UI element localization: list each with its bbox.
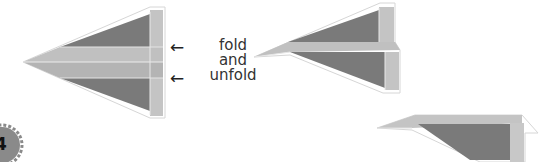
diagram-canvas	[0, 0, 543, 162]
left-arrow-icon: ←	[170, 70, 184, 87]
instruction-label: fold and unfold	[198, 38, 268, 83]
folding-diagram: ← ← fold and unfold 4	[0, 0, 543, 162]
plane-1-flat-with-fold-lines	[23, 7, 165, 118]
plane-2-folded-wings	[254, 3, 400, 93]
left-arrow-icon: ←	[170, 39, 184, 56]
instruction-line: unfold	[198, 68, 268, 83]
step-number: 4	[0, 134, 7, 154]
plane-3-folded-in-half	[377, 115, 538, 162]
